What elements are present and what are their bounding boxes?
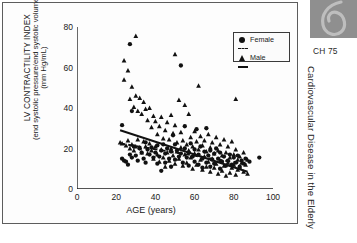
legend-label-female: Female [250,35,274,44]
x-tick-label: 60 [183,193,207,202]
x-tick-label: 0 [65,193,89,202]
solid-line-icon [237,62,249,71]
x-tick-label: 40 [143,193,167,202]
chart-legend: Female Male [233,32,290,62]
y-tick-label: 80 [49,23,73,32]
ornament-block [310,0,357,38]
triangle-marker-icon [237,53,249,62]
y-axis-ticks: 020406080 [47,3,73,225]
legend-line-female [237,44,287,53]
circle-marker-icon [237,35,249,44]
legend-label-male: Male [250,53,266,62]
chart-frame: LV CONTRACTILITY INDEX (end systolic pre… [2,2,298,224]
legend-line-male [237,62,287,71]
y-tick-label: 20 [49,145,73,154]
figure-panel: LV CONTRACTILITY INDEX (end systolic pre… [0,0,357,243]
legend-item-female: Female [237,35,287,44]
legend-item-male: Male [237,53,287,62]
chapter-number: CH 75 [313,46,338,56]
x-tick-label: 80 [222,193,246,202]
dashed-line-icon [237,44,249,53]
y-axis-label: LV CONTRACTILITY INDEX (end systolic pre… [23,0,48,158]
x-tick-label: 100 [261,193,285,202]
x-tick-label: 20 [104,193,128,202]
y-tick-label: 40 [49,104,73,113]
y-tick-label: 60 [49,64,73,73]
swirl-ornament-icon [315,0,353,38]
running-head: Cardiovascular Disease in the Elderly [306,66,317,236]
trend-lines [120,130,249,172]
x-axis-label: AGE (years) [3,205,299,215]
